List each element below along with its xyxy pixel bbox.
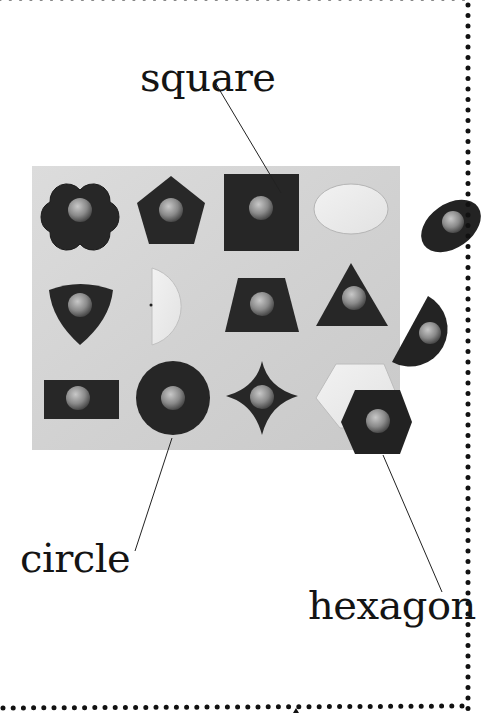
loose-piece-ellipse [411, 189, 490, 263]
dotted-border-bottom [3, 706, 468, 708]
circle-leader-line [135, 438, 172, 551]
label-circle: circle [20, 538, 130, 578]
hole-ellipse [314, 184, 388, 234]
loose-piece-semicircle [392, 296, 448, 367]
piece-quatrefoil [41, 184, 119, 250]
label-square: square [140, 57, 276, 97]
hexagon-leader-line [383, 455, 442, 592]
piece-rectangle [44, 380, 119, 419]
worksheet-page: square circle hexagon [0, 0, 499, 716]
loose-piece-hexagon [341, 390, 412, 454]
piece-square [224, 174, 299, 251]
label-hexagon: hexagon [308, 585, 476, 625]
piece-circle [136, 361, 210, 435]
